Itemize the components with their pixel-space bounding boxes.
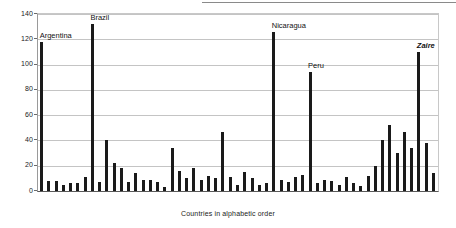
bar <box>432 173 435 191</box>
y-axis-tick-mark <box>34 190 37 191</box>
y-axis-tick-mark <box>34 89 37 90</box>
bar <box>403 132 406 191</box>
bar <box>229 177 232 191</box>
bar <box>396 153 399 191</box>
bar <box>301 175 304 191</box>
bar <box>316 183 319 191</box>
bar <box>163 187 166 191</box>
bar-annotation-label: Brazil <box>90 14 109 22</box>
bar <box>171 148 174 191</box>
bar <box>47 181 50 191</box>
bar <box>55 181 58 191</box>
y-axis-tick-mark <box>34 114 37 115</box>
bar <box>258 185 261 191</box>
bar <box>287 182 290 191</box>
bar <box>367 176 370 191</box>
y-axis-tick-label: 100 <box>21 60 33 67</box>
bar <box>243 172 246 191</box>
bar <box>105 140 108 191</box>
bar <box>410 148 413 191</box>
bar <box>338 185 341 191</box>
bar <box>374 166 377 191</box>
bar <box>76 183 79 191</box>
bar-annotation-label: Zaire <box>417 42 435 50</box>
bar <box>309 72 312 191</box>
bar <box>352 183 355 191</box>
y-axis-tick-mark <box>34 139 37 140</box>
bar <box>84 177 87 191</box>
y-axis-tick-mark <box>34 165 37 166</box>
bar <box>330 181 333 191</box>
bar <box>40 42 43 191</box>
y-axis-tick-mark <box>34 64 37 65</box>
bar <box>359 186 362 191</box>
bar <box>381 140 384 191</box>
bar <box>62 185 65 191</box>
bar-annotation-label: Nicaragua <box>272 22 306 30</box>
y-axis-tick-label: 40 <box>25 136 33 143</box>
bar <box>178 171 181 191</box>
y-axis-tick-label: 0 <box>29 187 33 194</box>
bar <box>265 183 268 191</box>
bar-series <box>38 14 437 191</box>
y-axis-tick-label: 120 <box>21 35 33 42</box>
bar <box>91 24 94 191</box>
bar <box>127 182 130 191</box>
bar <box>294 177 297 191</box>
bar <box>272 32 275 191</box>
bar <box>113 163 116 191</box>
bar <box>156 182 159 191</box>
bar <box>388 125 391 191</box>
y-axis-tick-label: 20 <box>25 161 33 168</box>
bar <box>207 176 210 191</box>
bar-chart: 020406080100120140 ArgentinaBrazilNicara… <box>0 0 456 228</box>
y-axis-tick-mark <box>34 38 37 39</box>
bar <box>192 168 195 191</box>
y-axis-tick-label: 140 <box>21 10 33 17</box>
bar-annotation-label: Argentina <box>40 32 72 40</box>
bar <box>417 52 420 191</box>
bar <box>142 180 145 191</box>
bar <box>200 180 203 191</box>
bar <box>185 178 188 191</box>
bar <box>134 173 137 191</box>
bar <box>214 178 217 191</box>
x-axis-title: Countries in alphabetic order <box>0 210 456 217</box>
y-axis-tick-label: 80 <box>25 85 33 92</box>
y-axis-tick-label: 60 <box>25 111 33 118</box>
bar <box>323 180 326 191</box>
bar <box>69 183 72 191</box>
bar <box>149 180 152 191</box>
bar <box>345 177 348 191</box>
bar <box>425 143 428 191</box>
bar <box>221 132 224 191</box>
bar <box>98 182 101 191</box>
bar-annotation-label: Peru <box>308 62 324 70</box>
bar <box>251 178 254 191</box>
bar <box>280 180 283 191</box>
bar <box>236 185 239 191</box>
bar <box>120 168 123 191</box>
y-axis-tick-labels: 020406080100120140 <box>0 13 33 190</box>
y-axis-tick-mark <box>34 13 37 14</box>
